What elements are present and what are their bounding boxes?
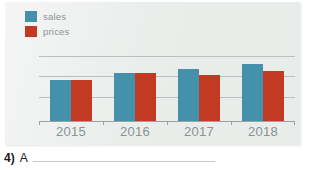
legend-item-prices[interactable]: prices [25, 25, 70, 37]
bar-sales-2017[interactable] [178, 69, 199, 121]
bar-sales-2016[interactable] [114, 73, 135, 121]
legend-swatch-icon-prices [25, 26, 37, 37]
answer-write-in-line[interactable] [33, 161, 215, 162]
legend-item-sales[interactable]: sales [25, 10, 70, 22]
question-number: 4) [4, 151, 15, 165]
x-label-2017: 2017 [167, 123, 231, 141]
bar-group-2016 [103, 56, 167, 121]
x-label-2015: 2015 [39, 123, 103, 141]
x-label-2018: 2018 [231, 123, 295, 141]
x-label-2016: 2016 [103, 123, 167, 141]
chart-legend: sales prices [25, 10, 70, 37]
chart-bar-groups [39, 56, 295, 121]
screenshot-root: sales prices [0, 0, 319, 170]
bar-sales-2018[interactable] [242, 64, 263, 121]
bar-prices-2017[interactable] [199, 75, 220, 121]
bar-group-2018 [231, 56, 295, 121]
chart-card: sales prices [5, 2, 300, 145]
answer-letter: A [20, 151, 28, 165]
bar-prices-2016[interactable] [135, 73, 156, 121]
bar-prices-2015[interactable] [71, 80, 92, 121]
legend-label-prices: prices [43, 26, 70, 37]
bar-sales-2015[interactable] [50, 80, 71, 121]
legend-label-sales: sales [43, 11, 66, 22]
chart-x-labels: 2015 2016 2017 2018 [39, 123, 295, 141]
legend-swatch-icon-sales [25, 11, 37, 22]
bar-group-2015 [39, 56, 103, 121]
bar-prices-2018[interactable] [263, 71, 284, 121]
question-footer: 4) A [4, 148, 319, 168]
bar-group-2017 [167, 56, 231, 121]
